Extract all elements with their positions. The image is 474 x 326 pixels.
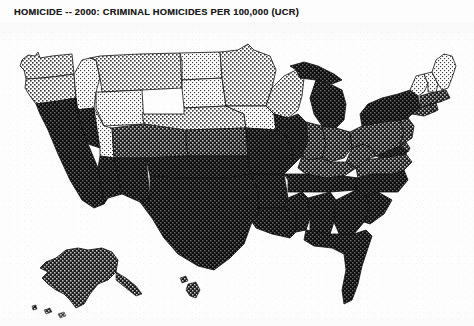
state-new-mexico	[114, 158, 150, 202]
aleutian-island-2	[32, 305, 37, 310]
state-south-dakota	[182, 78, 226, 108]
state-minnesota	[220, 44, 276, 106]
state-alaska	[40, 248, 118, 308]
state-new-york	[360, 90, 420, 126]
state-florida	[304, 230, 372, 304]
state-ohio	[322, 126, 352, 162]
state-montana	[90, 53, 182, 92]
alaska-panhandle	[116, 272, 142, 296]
state-alabama	[308, 192, 336, 234]
aleutian-island-1	[44, 308, 52, 314]
state-hawaii-island-1	[186, 282, 200, 298]
state-hawaii-island-2	[180, 276, 188, 283]
us-choropleth-map	[0, 22, 474, 326]
state-wyoming	[96, 90, 144, 126]
state-texas	[140, 174, 262, 270]
map-svg	[0, 22, 474, 326]
state-oklahoma	[146, 156, 250, 178]
aleutian-island-3	[58, 312, 66, 318]
state-tennessee	[284, 174, 358, 192]
state-georgia	[334, 190, 370, 236]
state-kansas	[186, 128, 248, 156]
state-michigan-lower	[310, 80, 346, 128]
state-north-dakota	[180, 52, 222, 80]
page-title: HOMICIDE -- 2000: CRIMINAL HOMICIDES PER…	[14, 6, 299, 18]
scanned-map-page: HOMICIDE -- 2000: CRIMINAL HOMICIDES PER…	[0, 0, 474, 326]
